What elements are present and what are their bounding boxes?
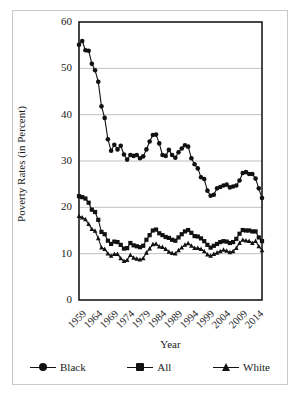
data-point [163, 154, 168, 159]
data-point [260, 196, 265, 201]
legend-item-white[interactable]: White [213, 361, 270, 373]
legend-label-all: All [157, 361, 171, 373]
data-point [257, 235, 261, 239]
data-point [202, 177, 207, 182]
data-point [96, 218, 100, 222]
data-point [253, 176, 258, 181]
poverty-rates-line-chart: 0102030405060 19591964196919741979198419… [0, 0, 301, 396]
legend-label-black: Black [60, 361, 86, 373]
data-point [260, 239, 264, 243]
data-point [221, 247, 226, 252]
legend-marker-square-icon [127, 362, 153, 372]
x-axis-title: Year [79, 338, 262, 350]
legend-label-white: White [243, 361, 270, 373]
y-tick-label: 20 [48, 201, 72, 212]
data-point [115, 147, 120, 152]
data-point [86, 48, 91, 53]
data-point [144, 238, 148, 242]
data-point [256, 186, 261, 191]
data-point [202, 249, 207, 254]
data-point [148, 233, 152, 237]
data-point [205, 188, 210, 193]
data-point [186, 144, 191, 149]
data-point [147, 139, 152, 144]
y-tick-label: 60 [48, 16, 72, 27]
data-point [167, 148, 172, 153]
legend-marker-triangle-icon [213, 362, 239, 372]
data-point [234, 237, 238, 241]
data-point [87, 201, 91, 205]
series-all [77, 194, 264, 251]
data-point [102, 116, 107, 121]
data-point [192, 162, 197, 167]
legend-item-black[interactable]: Black [30, 361, 86, 373]
data-point [212, 193, 217, 198]
y-tick-label: 50 [48, 62, 72, 73]
data-point [154, 227, 158, 231]
data-point [144, 147, 149, 152]
plot-canvas [0, 0, 301, 396]
data-point [77, 42, 82, 47]
data-point [99, 245, 104, 250]
chart-legend: Black All White [30, 361, 270, 373]
data-point [122, 152, 127, 157]
data-point [125, 157, 130, 162]
data-point [118, 143, 123, 148]
data-point [176, 150, 181, 155]
data-point [125, 246, 129, 250]
data-point [195, 166, 200, 171]
y-tick-label: 30 [48, 155, 72, 166]
data-point [234, 183, 239, 188]
data-point [112, 142, 117, 147]
data-point [93, 68, 98, 73]
legend-marker-circle-icon [30, 362, 56, 372]
data-point [154, 132, 159, 137]
data-point [186, 241, 191, 246]
data-point [128, 252, 133, 257]
data-point [119, 243, 123, 247]
data-point [106, 137, 111, 142]
data-point [141, 244, 145, 248]
y-tick-label: 0 [48, 294, 72, 305]
data-point [250, 172, 255, 177]
data-point [96, 79, 101, 84]
data-point [80, 39, 85, 44]
data-point [96, 236, 101, 241]
y-tick-label: 10 [48, 248, 72, 259]
data-point [103, 232, 107, 236]
data-point [109, 149, 114, 154]
data-point [189, 243, 194, 248]
y-axis-title: Poverty Rates (in Percent) [15, 99, 27, 229]
data-point [141, 154, 146, 159]
data-point [202, 239, 206, 243]
data-point [93, 210, 97, 214]
data-point [189, 156, 194, 161]
data-point [99, 104, 104, 109]
data-point [240, 237, 245, 242]
data-point [253, 229, 257, 233]
data-point [83, 196, 87, 200]
data-point [173, 155, 178, 160]
legend-item-all[interactable]: All [127, 361, 171, 373]
data-point [237, 178, 242, 183]
data-point [237, 232, 241, 236]
series-black [77, 39, 265, 201]
data-point [77, 214, 82, 219]
data-point [154, 241, 159, 246]
data-point [90, 61, 95, 66]
y-tick-label: 40 [48, 109, 72, 120]
data-point [157, 141, 162, 146]
